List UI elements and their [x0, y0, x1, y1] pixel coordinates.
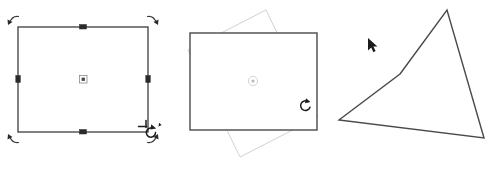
rotate-handle-top-left[interactable] — [8, 16, 19, 25]
rotate-handle-bottom-right[interactable] — [148, 134, 159, 143]
rotate-handle-top-right[interactable] — [148, 16, 159, 25]
illustration-canvas — [0, 0, 490, 173]
panel-dragging-state — [170, 0, 332, 173]
handle-right-middle[interactable] — [146, 76, 151, 83]
handle-left-middle[interactable] — [16, 76, 20, 83]
panel-rotated-result-state — [332, 0, 490, 173]
handle-bottom-middle[interactable] — [80, 130, 87, 135]
rotate-handle-bottom-left[interactable] — [8, 134, 19, 143]
handle-top-middle[interactable] — [80, 25, 87, 30]
panel-selected-state — [0, 0, 170, 173]
rotated-rectangle-shape[interactable] — [339, 10, 484, 138]
rotation-center-icon[interactable] — [80, 76, 88, 84]
arrow-cursor — [368, 38, 377, 52]
